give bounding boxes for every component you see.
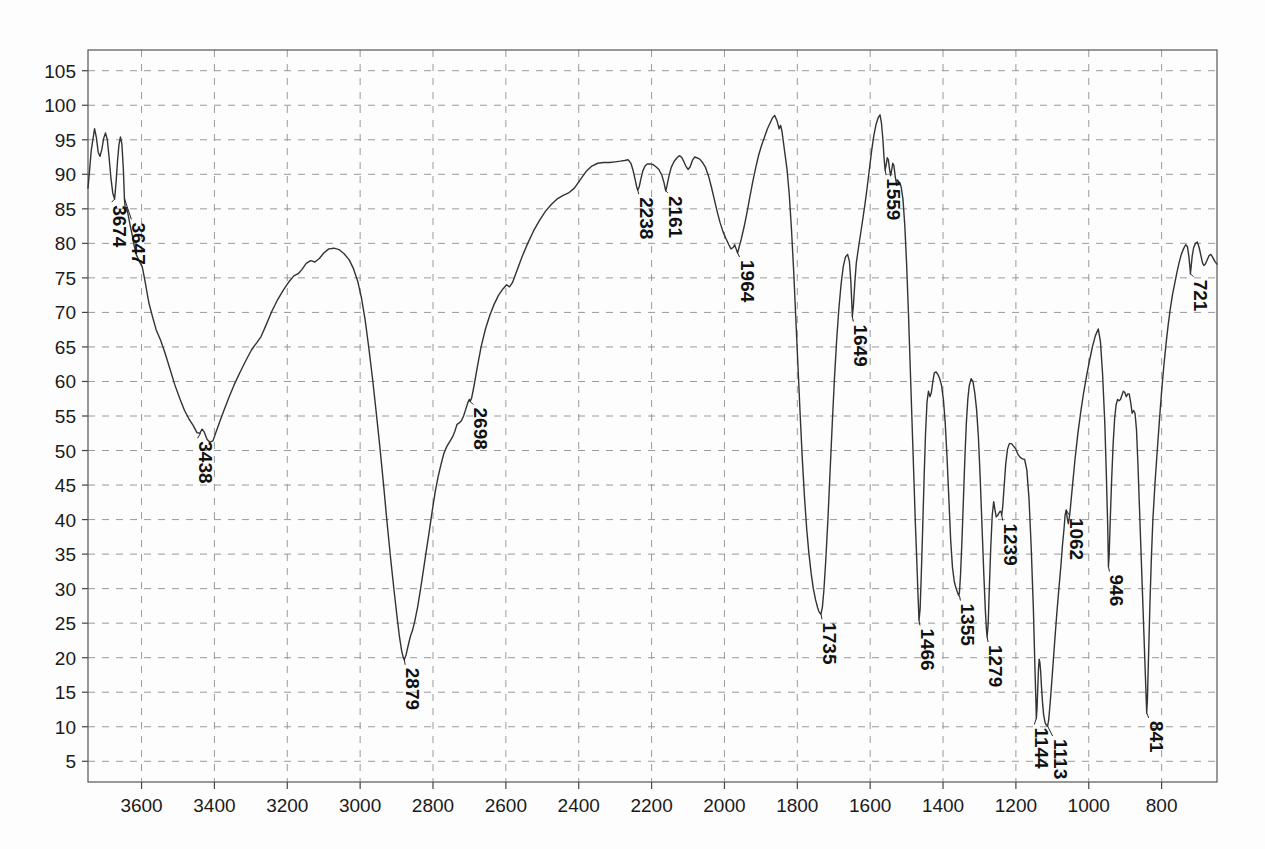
peak-label: 2879 xyxy=(402,668,423,710)
peak-label: 1355 xyxy=(957,604,978,647)
peak-leader-line xyxy=(987,637,988,642)
peak-label: 3674 xyxy=(109,205,130,248)
y-axis-tick-labels: 5101520253035404550556065707580859095100… xyxy=(44,61,76,773)
y-axis-tick-label: 45 xyxy=(55,475,76,496)
peak-label: 1649 xyxy=(850,325,871,367)
grid-lines xyxy=(88,50,1217,782)
y-axis-tick-label: 75 xyxy=(55,268,76,289)
peak-label: 1279 xyxy=(985,645,1006,687)
peak-leader-line xyxy=(666,191,668,193)
peak-leader-line xyxy=(959,596,960,601)
peak-label: 1144 xyxy=(1031,727,1052,769)
y-axis-tick-label: 105 xyxy=(44,61,76,82)
y-axis-tick-label: 5 xyxy=(65,751,76,772)
x-axis-tick-label: 1600 xyxy=(849,795,891,816)
y-axis-tick-label: 30 xyxy=(55,579,76,600)
peak-label: 2161 xyxy=(665,196,686,239)
peak-leader-line xyxy=(404,660,405,665)
peak-label: 946 xyxy=(1106,575,1127,607)
chart-container: 5101520253035404550556065707580859095100… xyxy=(0,0,1265,849)
peak-label: 721 xyxy=(1190,280,1211,312)
ir-spectrum-chart: 5101520253035404550556065707580859095100… xyxy=(0,0,1265,849)
x-axis-tick-label: 2400 xyxy=(558,795,600,816)
peak-leader-line xyxy=(738,253,740,257)
peak-leader-line xyxy=(198,433,201,438)
x-axis-tick-label: 1200 xyxy=(995,795,1037,816)
y-axis-tick-label: 85 xyxy=(55,199,76,220)
y-axis-tick-label: 35 xyxy=(55,544,76,565)
peak-label: 2238 xyxy=(636,197,657,239)
x-axis-tick-label: 1000 xyxy=(1068,795,1110,816)
peak-label: 1113 xyxy=(1050,739,1071,779)
y-axis-tick-label: 70 xyxy=(55,302,76,323)
y-axis-tick-label: 55 xyxy=(55,406,76,427)
x-axis-tick-label: 2000 xyxy=(703,795,745,816)
y-axis-tick-label: 15 xyxy=(55,682,76,703)
x-axis-tick-label: 800 xyxy=(1146,795,1178,816)
y-axis-tick-label: 65 xyxy=(55,337,76,358)
peak-label: 1062 xyxy=(1066,518,1087,560)
y-axis-tick-label: 80 xyxy=(55,233,76,254)
x-axis-tick-label: 2600 xyxy=(485,795,527,816)
peak-leader-line xyxy=(1190,274,1193,277)
peak-leader-line xyxy=(112,199,115,202)
y-axis-tick-label: 95 xyxy=(55,130,76,151)
y-axis-tick-label: 10 xyxy=(55,717,76,738)
peak-leader-line xyxy=(885,170,886,175)
y-axis-tick-label: 90 xyxy=(55,164,76,185)
y-axis-tick-label: 40 xyxy=(55,510,76,531)
peak-label: 1466 xyxy=(917,628,938,670)
peak-leader-line xyxy=(1108,567,1109,572)
ir-spectrum-page: 5101520253035404550556065707580859095100… xyxy=(0,0,1265,849)
x-axis-tick-label: 1400 xyxy=(922,795,964,816)
peak-leader-line xyxy=(821,614,822,619)
peak-label: 1735 xyxy=(819,622,840,665)
peak-leader-line xyxy=(470,401,473,404)
peak-label: 2698 xyxy=(470,407,491,449)
peak-leader-line xyxy=(1034,718,1036,724)
x-axis-tick-label: 3000 xyxy=(339,795,381,816)
peak-leader-line xyxy=(638,190,639,194)
peak-leader-line xyxy=(919,620,920,625)
peak-label: 841 xyxy=(1146,721,1167,753)
peak-label: 1239 xyxy=(1000,523,1021,565)
y-axis-tick-label: 50 xyxy=(55,441,76,462)
y-axis-tick-label: 100 xyxy=(44,95,76,116)
peak-leader-line xyxy=(1147,713,1149,718)
peak-annotations: 3674364734382879269822382161196417351649… xyxy=(109,170,1212,779)
y-axis-tick-label: 25 xyxy=(55,613,76,634)
x-axis-tick-label: 2200 xyxy=(630,795,672,816)
x-axis-tick-labels: 3600340032003000280026002400220020001800… xyxy=(120,795,1177,816)
peak-label: 3438 xyxy=(195,441,216,483)
y-axis-tick-label: 20 xyxy=(55,648,76,669)
peak-leader-line xyxy=(852,317,853,322)
x-axis-tick-label: 3200 xyxy=(266,795,308,816)
x-axis-tick-label: 2800 xyxy=(412,795,454,816)
x-axis-tick-label: 3600 xyxy=(120,795,162,816)
x-axis-tick-label: 1800 xyxy=(776,795,818,816)
peak-label: 1559 xyxy=(883,178,904,220)
y-axis-tick-label: 60 xyxy=(55,371,76,392)
x-axis-tick-label: 3400 xyxy=(193,795,235,816)
peak-label: 3647 xyxy=(128,222,149,264)
peak-label: 1964 xyxy=(737,260,758,303)
